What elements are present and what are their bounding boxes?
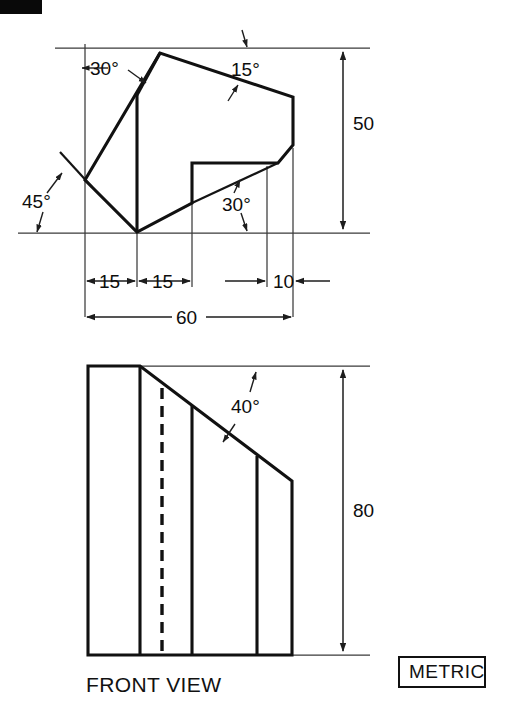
top-view-group: 30° 15° 45° 30° 50 15 15 — [18, 30, 374, 328]
black-corner-bar — [0, 0, 42, 14]
leader-30deg-upper-left-b — [128, 70, 146, 83]
top-view-outline — [85, 53, 293, 232]
dim-label-15-mid: 15 — [152, 271, 173, 292]
drawing-root: 30° 15° 45° 30° 50 15 15 — [0, 0, 507, 711]
dim-label-15-left: 15 — [99, 271, 120, 292]
angle-label-40: 40° — [231, 396, 260, 417]
top-view-45deg-construction-line — [60, 152, 92, 187]
dim-label-80: 80 — [353, 500, 374, 521]
front-view-group: 40° 80 FRONT VIEW — [86, 366, 374, 696]
angle-label-30-upper-left: 30° — [90, 58, 119, 79]
dim-label-50: 50 — [353, 113, 374, 134]
leader-40deg-up — [250, 372, 256, 392]
metric-badge: METRIC — [399, 657, 485, 687]
angle-label-45: 45° — [22, 191, 51, 212]
angle-label-30-mid: 30° — [222, 194, 251, 215]
leader-30deg-mid-down — [241, 213, 247, 231]
leader-15deg-up — [242, 30, 247, 47]
top-view-apex-to-internal-edge — [137, 53, 160, 95]
metric-badge-label: METRIC — [409, 661, 485, 682]
technical-drawing-canvas: 30° 15° 45° 30° 50 15 15 — [0, 0, 507, 711]
leader-45deg-down — [37, 212, 43, 232]
leader-40deg-down — [223, 424, 235, 442]
dim-label-10: 10 — [273, 271, 294, 292]
leader-15deg-down — [228, 85, 238, 101]
front-view-title: FRONT VIEW — [86, 673, 221, 696]
front-view-outline — [88, 366, 292, 655]
angle-label-15: 15° — [231, 59, 260, 80]
leader-45deg-up — [47, 173, 62, 193]
dim-label-60: 60 — [176, 307, 197, 328]
